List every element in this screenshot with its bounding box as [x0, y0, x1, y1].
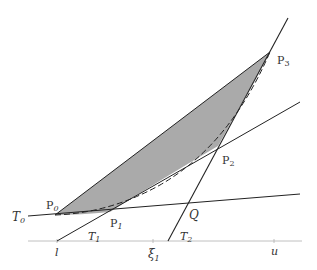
label-t0: T0 — [12, 210, 25, 225]
label-p3: P3 — [277, 54, 290, 68]
label-p1: P1 — [110, 217, 123, 231]
label-p0: P0 — [46, 199, 59, 213]
label-p2: P2 — [222, 154, 235, 168]
label-q: Q — [189, 208, 199, 222]
label-xi1: ξ1 — [148, 247, 160, 263]
tangent-approximation-diagram: T0 P0 P1 T1 P2 P3 Q T2 l ξ1 u — [0, 0, 317, 270]
label-t1: T1 — [88, 230, 100, 244]
label-l: l — [55, 246, 59, 259]
chord-p0-p3 — [55, 52, 270, 215]
label-t2: T2 — [180, 230, 192, 244]
label-u: u — [271, 245, 278, 258]
